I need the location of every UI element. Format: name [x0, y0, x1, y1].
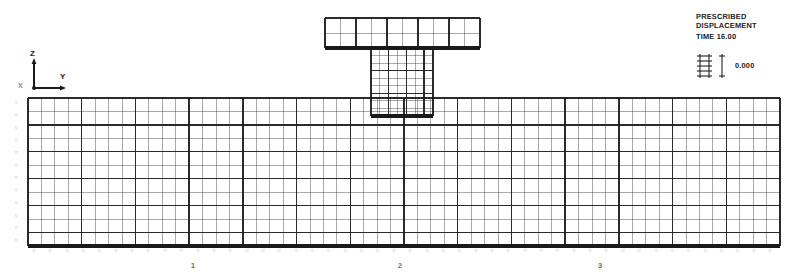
svg-text:○: ○ [767, 248, 773, 252]
svg-text:○: ○ [113, 248, 119, 252]
svg-text:2: 2 [398, 261, 403, 270]
axis-label-y: Y [60, 72, 65, 81]
svg-text:○: ○ [358, 248, 364, 252]
svg-text:○: ○ [620, 248, 626, 252]
svg-text:○: ○ [276, 248, 282, 252]
svg-text:○: ○ [571, 248, 577, 252]
svg-text:○: ○ [456, 248, 462, 252]
svg-text:○: ○ [424, 248, 430, 252]
svg-text:○: ○ [473, 248, 479, 252]
svg-text:○: ○ [13, 238, 19, 242]
svg-text:○: ○ [31, 248, 37, 252]
svg-text:○: ○ [13, 163, 19, 167]
svg-text:○: ○ [195, 248, 201, 252]
svg-text:○: ○ [13, 138, 19, 142]
svg-text:○: ○ [734, 248, 740, 252]
svg-text:○: ○ [260, 248, 266, 252]
svg-text:○: ○ [391, 248, 397, 252]
svg-text:○: ○ [309, 248, 315, 252]
legend-title-line-2: DISPLACEMENT [696, 21, 792, 30]
svg-text:○: ○ [178, 248, 184, 252]
svg-text:○: ○ [13, 200, 19, 204]
svg-text:○: ○ [129, 248, 135, 252]
svg-text:○: ○ [13, 213, 19, 217]
svg-text:○: ○ [407, 248, 413, 252]
svg-text:○: ○ [211, 248, 217, 252]
svg-text:○: ○ [685, 248, 691, 252]
svg-text:○: ○ [244, 248, 250, 252]
displacement-scale-icon [696, 53, 730, 79]
svg-text:○: ○ [13, 175, 19, 179]
legend-panel: PRESCRIBED DISPLACEMENT TIME 16.00 0.00 [696, 12, 792, 79]
svg-text:○: ○ [96, 248, 102, 252]
svg-text:○: ○ [718, 248, 724, 252]
svg-text:○: ○ [374, 248, 380, 252]
svg-text:○: ○ [13, 150, 19, 154]
legend-scale-value: 0.000 [735, 61, 755, 70]
svg-text:○: ○ [538, 248, 544, 252]
svg-text:○: ○ [636, 248, 642, 252]
mesh-canvas: ○○○○○○○○○○○○○○○○○○○○○○○○○○○○○○○○○○○○○○○○… [0, 0, 798, 274]
svg-text:○: ○ [293, 248, 299, 252]
svg-text:3: 3 [598, 261, 603, 270]
svg-text:○: ○ [587, 248, 593, 252]
svg-text:○: ○ [653, 248, 659, 252]
svg-text:○: ○ [162, 248, 168, 252]
svg-text:○: ○ [13, 188, 19, 192]
svg-text:○: ○ [227, 248, 233, 252]
svg-text:○: ○ [522, 248, 528, 252]
svg-text:○: ○ [145, 248, 151, 252]
svg-text:○: ○ [505, 248, 511, 252]
svg-text:○: ○ [342, 248, 348, 252]
legend-title-line-1: PRESCRIBED [696, 12, 792, 21]
axis-label-z: Z [30, 49, 35, 58]
legend-time-label: TIME 16.00 [696, 32, 792, 41]
svg-text:○: ○ [13, 125, 19, 129]
svg-text:○: ○ [554, 248, 560, 252]
svg-text:○: ○ [80, 248, 86, 252]
svg-text:1: 1 [191, 261, 196, 270]
svg-text:○: ○ [13, 225, 19, 229]
svg-text:○: ○ [13, 113, 19, 117]
svg-text:○: ○ [440, 248, 446, 252]
svg-text:○: ○ [47, 248, 53, 252]
svg-text:○: ○ [64, 248, 70, 252]
svg-text:○: ○ [702, 248, 708, 252]
fea-mesh-plot: ○○○○○○○○○○○○○○○○○○○○○○○○○○○○○○○○○○○○○○○○… [0, 0, 798, 274]
legend-scale: 0.000 [696, 53, 792, 79]
svg-text:○: ○ [489, 248, 495, 252]
svg-text:○: ○ [13, 100, 19, 104]
svg-text:○: ○ [325, 248, 331, 252]
svg-text:○: ○ [751, 248, 757, 252]
svg-text:○: ○ [603, 248, 609, 252]
axis-label-x: X [18, 82, 23, 89]
svg-text:○: ○ [669, 248, 675, 252]
